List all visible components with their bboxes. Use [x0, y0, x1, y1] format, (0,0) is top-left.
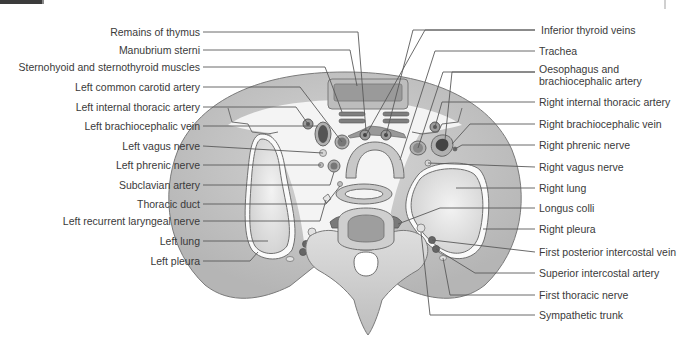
label-inferior-thyroid-veins: Inferior thyroid veins	[541, 24, 636, 36]
label-oesophagus-and: Oesophagus and	[539, 63, 619, 75]
label-remains-of-thymus: Remains of thymus	[110, 26, 200, 38]
label-left-internal-thoracic-artery: Left internal thoracic artery	[76, 101, 200, 113]
label-right-brachiocephalic-vein: Right brachiocephalic vein	[539, 118, 662, 130]
label-left-phrenic-nerve: Left phrenic nerve	[116, 159, 200, 171]
manubrium-sterni	[328, 79, 408, 109]
label-left-recurrent-laryngeal-nerve: Left recurrent laryngeal nerve	[63, 215, 200, 227]
label-sympathetic-trunk: Sympathetic trunk	[539, 309, 623, 321]
label-sternohyoid-sternothyroid: Sternohyoid and sternothyroid muscles	[18, 61, 200, 73]
label-left-brachiocephalic-vein: Left brachiocephalic vein	[84, 120, 200, 132]
label-superior-intercostal-artery: Superior intercostal artery	[539, 267, 659, 279]
label-right-vagus-nerve: Right vagus nerve	[539, 161, 624, 173]
label-left-pleura: Left pleura	[150, 255, 200, 267]
oesophagus	[336, 184, 392, 204]
label-subclavian-artery: Subclavian artery	[119, 179, 200, 191]
label-thoracic-duct: Thoracic duct	[137, 198, 200, 210]
label-left-vagus-nerve: Left vagus nerve	[122, 140, 200, 152]
label-right-phrenic-nerve: Right phrenic nerve	[539, 139, 630, 151]
label-first-thoracic-nerve: First thoracic nerve	[539, 289, 628, 301]
label-right-internal-thoracic-artery: Right internal thoracic artery	[539, 96, 670, 108]
label-brachiocephalic-artery: brachiocephalic artery	[539, 75, 642, 87]
label-trachea: Trachea	[539, 45, 577, 57]
label-longus-colli: Longus colli	[539, 202, 594, 214]
label-right-pleura: Right pleura	[539, 223, 596, 235]
anatomy-diagram: Remains of thymus Manubrium sterni Stern…	[0, 0, 689, 347]
label-right-lung: Right lung	[539, 182, 586, 194]
label-first-posterior-intercostal-vein: First posterior intercostal vein	[539, 246, 676, 258]
label-left-common-carotid-artery: Left common carotid artery	[75, 81, 200, 93]
label-left-lung: Left lung	[160, 235, 200, 247]
label-manubrium-sterni: Manubrium sterni	[119, 44, 200, 56]
